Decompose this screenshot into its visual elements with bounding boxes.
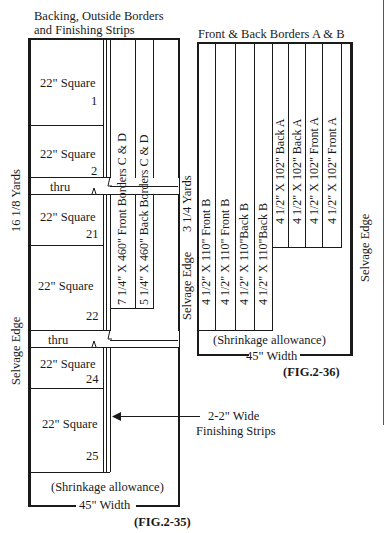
strip-b-divider-2 <box>235 42 236 330</box>
strip-a-label-4: 4 1/2" X 102" Front A <box>326 117 338 224</box>
square-21-label: 22" Square <box>40 211 95 224</box>
front-border-cd-label: 7 1/4" X 460" Front Borders C & D <box>116 133 128 305</box>
strips-b-bottom <box>197 330 273 331</box>
square-1-label: 22" Square <box>40 77 95 90</box>
strip-b-label-2: 4 1/2" X 110" Front B <box>219 199 231 305</box>
finishing-strips-label-1: 2-2" Wide <box>208 410 259 423</box>
strip-a-divider-1 <box>288 42 289 248</box>
strip-a-divider-3 <box>322 42 323 248</box>
fig36-heading: Front & Back Borders A & B <box>198 28 345 41</box>
fig36-right-border <box>350 42 353 356</box>
strip-a-divider-4 <box>341 42 342 248</box>
fig36-length-label: 3 1/4 Yards <box>181 175 194 232</box>
fig36-top-border <box>197 42 352 44</box>
square-2-label: 22" Square <box>40 148 95 161</box>
fig35-bottom-border-right <box>136 505 180 507</box>
square-2-number: 2 <box>91 165 97 178</box>
fig36-shrinkage: (Shrinkage allowance) <box>213 334 326 347</box>
strip-b-divider-1 <box>215 42 216 330</box>
thru-label-1: thru <box>50 181 70 194</box>
back-border-cd-divider <box>153 38 154 308</box>
finishing-strips-pointer-line <box>118 416 200 417</box>
square-divider-3 <box>30 388 103 389</box>
arrow-left-icon <box>112 412 122 421</box>
border-cd-bottom <box>110 308 154 309</box>
fig36-bottom-border-left <box>197 354 249 356</box>
strip-b-divider-3 <box>254 42 255 330</box>
square-21-number: 21 <box>86 228 99 241</box>
square-1-number: 1 <box>91 95 97 108</box>
fig35-selvage-label: Selvage Edge <box>10 317 23 385</box>
strip-b-label-3: 4 1/2" X 110"Back B <box>238 203 250 305</box>
fig36-caption: (FIG.2-36) <box>283 366 340 379</box>
fig35-width: 45" Width <box>79 499 130 512</box>
square-24-label: 22" Square <box>40 358 95 371</box>
strip-a-divider-2 <box>305 42 306 248</box>
fig35-heading-line2: and Finishing Strips <box>34 24 135 37</box>
fig36-bottom-border-right <box>300 354 353 356</box>
back-border-cd-label: 5 1/4" X 460" Back Borders C & D <box>138 135 150 305</box>
thru-label-2: thru <box>48 334 68 347</box>
fig35-top-border <box>28 38 180 40</box>
strip-a-label-3: 4 1/2" X 102" Front A <box>308 117 320 224</box>
front-border-cd-divider <box>135 38 136 308</box>
square-22-label: 22" Square <box>38 280 93 293</box>
strip-a-label-2: 4 1/2" X 102" Back A <box>291 119 303 224</box>
thru-bottom-1 <box>30 194 92 195</box>
finishing-strips-label-2: Finishing Strips <box>196 425 276 438</box>
squares-bottom <box>30 472 110 473</box>
break-line-2a <box>110 340 178 341</box>
strips-a-bottom <box>272 247 342 248</box>
square-divider-1 <box>30 125 103 126</box>
fig35-shrinkage: (Shrinkage allowance) <box>51 481 164 494</box>
fig36-width: 45" Width <box>246 350 297 363</box>
fig36-selvage-left: Selvage Edge <box>181 252 194 320</box>
break-zigzag-2 <box>90 328 114 352</box>
fig35-length-label: 16 1/8 Yards <box>10 169 23 232</box>
fig35-left-border <box>28 38 31 507</box>
page-edge-line <box>383 0 384 425</box>
fig35-caption: (FIG.2-35) <box>134 516 191 529</box>
strip-b-label-1: 4 1/2" X 110" Front B <box>200 199 212 305</box>
fig35-heading-line1: Backing, Outside Borders <box>34 10 164 23</box>
square-divider-2 <box>30 245 103 246</box>
fig35-bottom-border-left <box>28 505 76 507</box>
thru-bottom-2 <box>30 347 92 348</box>
square-25-label: 22" Square <box>42 418 97 431</box>
strip-b-label-4: 4 1/2" X 110"Back B <box>257 203 269 305</box>
square-24-number: 24 <box>86 373 99 386</box>
break-zigzag-1 <box>90 175 114 199</box>
square-22-number: 22 <box>86 310 99 323</box>
finishing-strip-line-2 <box>106 38 107 472</box>
square-25-number: 25 <box>86 450 99 463</box>
strip-a-label-1: 4 1/2" X 102" Back A <box>274 119 286 224</box>
finishing-strip-line-3 <box>110 38 111 472</box>
fig36-selvage-right: Selvage Edge <box>359 214 372 282</box>
finishing-strip-line-1 <box>103 38 104 472</box>
